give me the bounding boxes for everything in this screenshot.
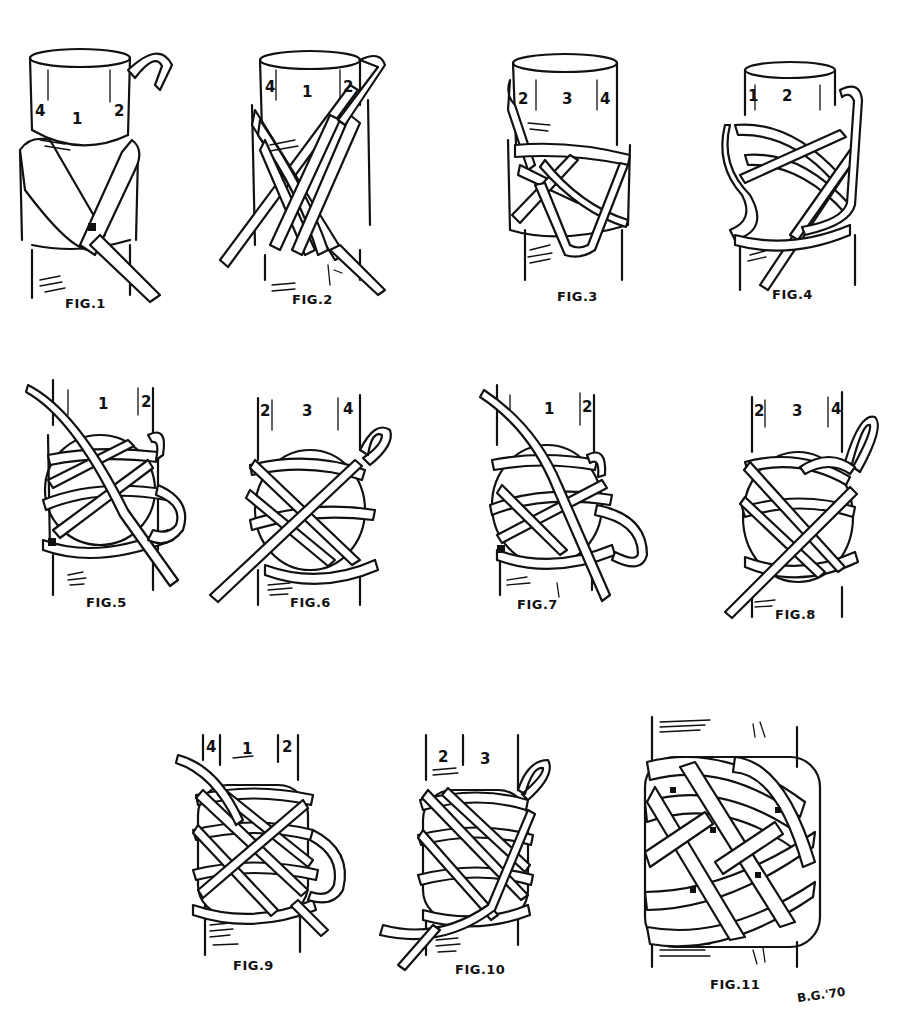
knot-illustration-fig1 [10,40,200,320]
section-number: 3 [792,402,802,420]
section-number: 1 [748,87,758,105]
section-number: 4 [35,102,45,120]
section-number: 3 [480,750,490,768]
section-number: 1 [98,395,108,413]
section-number: 2 [782,87,792,105]
knot-illustration-fig4 [720,55,880,315]
knot-illustration-fig9 [178,730,353,980]
figure-label: FIG.6 [290,595,331,610]
figure-9: 4 1 2 FIG.9 [178,730,353,980]
figure-6: 2 3 4 FIG.6 [210,390,400,625]
section-number: 1 [544,400,554,418]
figure-label: FIG.11 [710,977,760,992]
figure-1: 4 1 2 FIG.1 [10,40,200,320]
figure-11: FIG.11 [615,712,820,1002]
section-number: 2 [754,402,764,420]
figure-4: 1 2 FIG.4 [720,55,880,315]
knot-illustration-fig5 [28,380,198,620]
figure-8: 2 3 4 FIG.8 [720,392,895,632]
section-number: 1 [72,110,82,128]
section-number: 2 [260,402,270,420]
knot-illustration-fig3 [500,45,650,315]
figure-label: FIG.5 [86,595,127,610]
figure-label: FIG.8 [775,607,816,622]
section-number: 1 [242,740,252,758]
figure-5: 1 2 FIG.5 [28,380,198,620]
figure-label: FIG.10 [455,962,505,977]
figure-label: FIG.7 [517,597,558,612]
section-number: 3 [302,402,312,420]
knot-illustration-fig6 [210,390,400,625]
section-number: 4 [206,738,216,756]
figure-7: 1 2 FIG.7 [482,385,657,620]
section-number: 2 [282,738,292,756]
section-number: 2 [114,102,124,120]
figure-2: 4 1 2 FIG.2 [210,45,400,315]
section-number: 2 [582,398,592,416]
figure-label: FIG.1 [65,296,106,311]
section-number: 4 [265,78,275,96]
figure-3: 2 3 4 FIG.3 [500,45,650,315]
section-number: 3 [562,90,572,108]
section-number: 4 [831,400,841,418]
section-number: 4 [343,400,353,418]
knot-illustration-fig8 [720,392,895,632]
section-number: 2 [343,78,353,96]
section-number: 2 [438,748,448,766]
knot-illustration-fig10 [378,730,563,980]
figure-label: FIG.4 [772,287,813,302]
section-number: 2 [141,393,151,411]
figure-label: FIG.2 [292,292,333,307]
knot-illustration-fig11 [615,712,820,1002]
knot-illustration-fig7 [482,385,657,620]
figure-label: FIG.9 [233,958,274,973]
section-number: 2 [518,90,528,108]
section-number: 4 [600,90,610,108]
section-number: 1 [302,83,312,101]
figure-label: FIG.3 [557,289,598,304]
figure-10: 2 3 FIG.10 [378,730,563,980]
